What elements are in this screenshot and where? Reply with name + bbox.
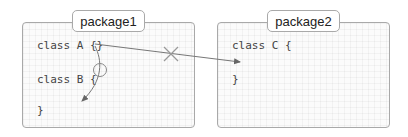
connections-layer	[0, 0, 408, 137]
forbidden-dependency-arrow	[95, 44, 240, 62]
allowed-dependency-arrow	[82, 46, 100, 101]
